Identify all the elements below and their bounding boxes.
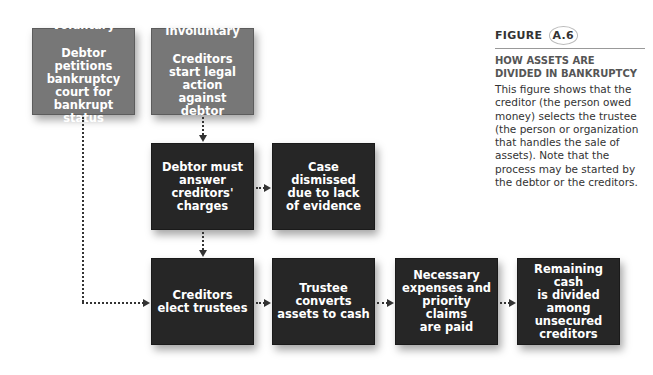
node-case-dismissed-text: Case dismissed due to lack of evidence [277,161,370,213]
connector-voluntary-across [82,302,144,304]
arrow-down-icon [199,135,207,142]
node-involuntary-title: Involuntary [156,25,249,38]
connector-voluntary-down [82,117,84,302]
figure-number: A.6 [549,26,578,45]
node-trustee-converts: Trustee converts assets to cash [272,258,375,345]
figure-label-text: FIGURE [495,29,542,42]
arrow-right-icon [387,299,394,307]
node-involuntary: Involuntary Creditors start legal action… [151,28,254,115]
node-creditors-elect-text: Creditors elect trustees [157,289,247,315]
arrow-right-icon [509,299,516,307]
figure-caption: FIGURE A.6 HOW ASSETS ARE DIVIDED IN BAN… [495,26,645,189]
figure-description: This figure shows that the creditor (the… [495,83,645,189]
node-voluntary: Voluntary Debtor petitions bankruptcy co… [32,28,135,115]
node-expenses-paid: Necessary expenses and priority claims a… [395,258,498,345]
node-remaining-cash: Remaining cash is divided among unsecure… [517,258,620,345]
arrow-right-icon [143,299,150,307]
node-expenses-paid-text: Necessary expenses and priority claims a… [400,269,493,334]
node-involuntary-text: Creditors start legal action against deb… [156,53,249,118]
arrow-down-icon [199,250,207,257]
node-voluntary-title: Voluntary [37,19,130,32]
node-voluntary-text: Debtor petitions bankruptcy court for ba… [37,47,130,125]
arrow-right-icon [264,299,271,307]
connector-answer-elect [202,232,204,250]
connector-involuntary-down [202,117,204,135]
node-remaining-cash-text: Remaining cash is divided among unsecure… [522,263,615,341]
figure-title: HOW ASSETS ARE DIVIDED IN BANKRUPTCY [495,54,645,80]
node-creditors-elect: Creditors elect trustees [151,258,254,345]
arrow-right-icon [264,184,271,192]
bankruptcy-flow-diagram: Voluntary Debtor petitions bankruptcy co… [0,0,653,375]
node-trustee-converts-text: Trustee converts assets to cash [277,282,370,321]
node-case-dismissed: Case dismissed due to lack of evidence [272,143,375,230]
node-debtor-answer-text: Debtor must answer creditors' charges [162,161,243,213]
node-debtor-answer: Debtor must answer creditors' charges [151,143,254,230]
figure-label: FIGURE A.6 [495,26,645,49]
